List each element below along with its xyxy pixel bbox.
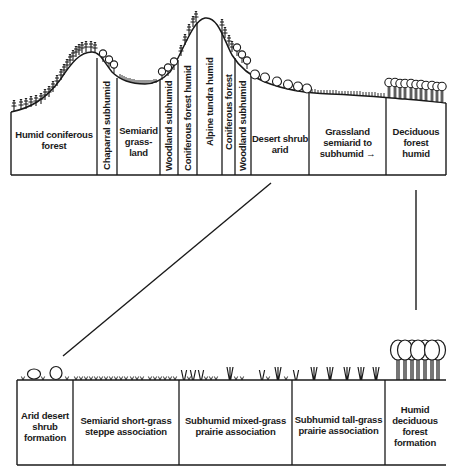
zone-label-line: Humid coniferous [15,129,93,140]
conifer-trees-left [12,41,98,111]
zone-label-line: grass- [125,136,152,147]
zone-humid-coniferous-forest: Humid coniferous forest [11,128,97,152]
woodland-trees-left [158,58,177,80]
zone-label-line: forest [403,137,428,148]
zone-label-line: formation [24,432,66,443]
zone-label-line: Semiarid short-grass [80,415,171,426]
zone-desert-shrub-arid: Desert shrub arid [251,132,309,156]
zone-subhumid-mixed-grass-prairie: Subhumid mixed-grass prairie association [179,414,292,438]
connector-line-diagonal [63,183,271,356]
zone-coniferous-forest: Coniferous forest [223,74,234,150]
zone-semiarid-grassland: Semiarid grass- land [117,123,160,159]
zone-deciduous-forest-humid: Deciduous forest humid [386,124,446,160]
zone-subhumid-tall-grass-prairie: Subhumid tall-grass prairie association [292,413,385,437]
zone-label-line: land [129,147,148,158]
zone-label-line: forest [402,426,427,437]
zone-label-line: formation [394,437,436,448]
zone-label-line: Subhumid tall-grass [295,414,383,425]
zone-label-line: Humid [401,404,430,415]
lower-profile [17,340,446,465]
mixed-grass [181,367,287,380]
arid-shrubs [21,367,68,381]
zone-label-line: forest [41,140,66,151]
zone-label-line: semiarid to [323,137,371,148]
zone-grassland-semiarid-subhumid: Grassland semiarid to subhumid → [309,124,386,160]
zone-label-line: subhumid → [320,148,376,159]
zone-label-line: steppe association [85,426,167,437]
zone-humid-deciduous-forest-formation: Humid deciduous forest formation [385,402,445,450]
tall-grass [293,367,379,380]
zone-alpine-tundra-humid: Alpine tundra humid [204,57,215,146]
semiarid-grass-ticks [120,74,156,84]
zone-arid-desert-shrub-formation: Arid desert shrub formation [17,408,73,444]
zone-label-line: arid [272,144,289,155]
zone-label-line: shrub [32,421,57,432]
zone-label-line: Desert shrub [252,133,308,144]
zone-label-line: humid [402,148,430,159]
woodland-trees-right [233,44,250,69]
zone-chaparral-subhumid: Chaparral subhumid [101,81,112,170]
zone-label-line: Grassland [325,126,370,137]
zone-label-line: Subhumid mixed-grass [185,415,286,426]
humid-forest-trees [391,340,446,380]
zone-label-line: prairie association [298,425,378,436]
zone-woodland-subhumid-left: Woodland subhumid [163,81,174,171]
desert-shrubs [251,70,312,93]
zone-coniferous-forest-humid: Coniferous forest humid [182,65,193,171]
zone-label-line: deciduous [392,415,438,426]
zone-label-line: Deciduous [393,126,440,137]
zone-label-line: prairie association [195,426,275,437]
zone-semiarid-short-grass-steppe: Semiarid short-grass steppe association [73,414,179,438]
chaparral-shrubs [99,50,117,73]
zone-label-line: Semiarid [119,125,158,136]
zone-label-line: Arid desert [21,410,69,421]
zone-woodland-subhumid-right: Woodland subhumid [237,81,248,171]
